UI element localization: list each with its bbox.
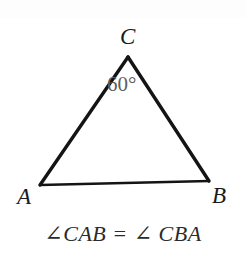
- vertex-label-c: C: [120, 25, 135, 48]
- figure-caption: ∠CAB = ∠ CBA: [0, 220, 246, 248]
- vertex-label-a: A: [17, 185, 31, 208]
- geometry-figure: C A B 60° ∠CAB = ∠ CBA: [0, 0, 246, 260]
- vertex-label-b: B: [212, 184, 226, 207]
- angle-measure-label: 60°: [107, 74, 136, 95]
- triangle-side-AB: [40, 181, 209, 185]
- triangle-side-CB: [128, 57, 209, 181]
